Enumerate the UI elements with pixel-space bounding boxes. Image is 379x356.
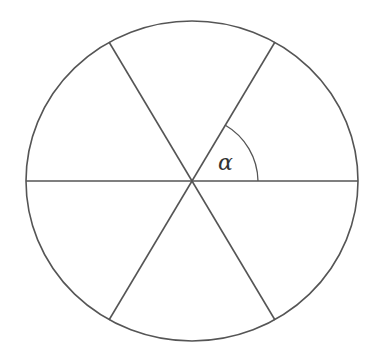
- angle-alpha-label: α: [218, 150, 233, 175]
- circle-diagram: [0, 0, 379, 356]
